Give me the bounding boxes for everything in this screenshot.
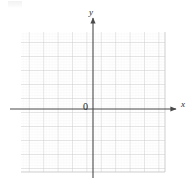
coordinate-grid-figure: y x 0 bbox=[0, 0, 196, 188]
y-axis-label: y bbox=[89, 8, 93, 17]
x-axis-label: x bbox=[181, 100, 185, 109]
origin-label: 0 bbox=[83, 102, 88, 112]
coordinate-plane bbox=[0, 0, 196, 188]
